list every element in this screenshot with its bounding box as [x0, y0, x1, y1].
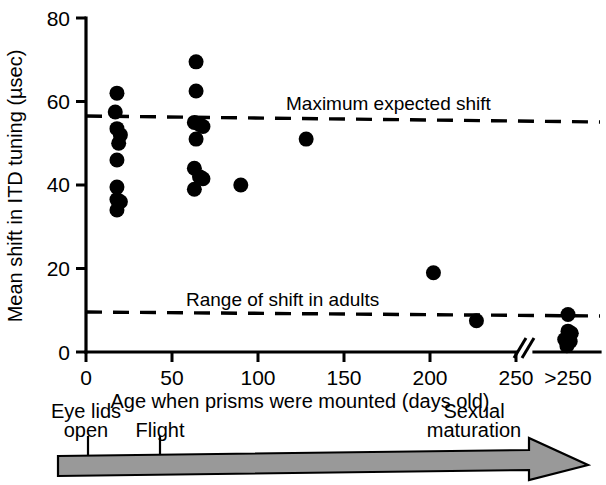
data-point: [233, 178, 248, 193]
data-point: [108, 104, 123, 119]
x-tick-label-50: 50: [160, 366, 183, 389]
data-point: [109, 152, 124, 167]
reference-line-label-adults: Range of shift in adults: [186, 289, 379, 310]
x-tick-label-150: 150: [326, 366, 361, 389]
y-tick-label-60: 60: [47, 90, 70, 113]
scatter-plot-svg: Mean shift in ITD tuning (µsec) 0 20 40 …: [0, 0, 606, 485]
reference-line-range-of-shift-in-adults: [86, 312, 600, 316]
y-tick-label-80: 80: [47, 7, 70, 30]
data-point: [187, 182, 202, 197]
data-point: [564, 326, 579, 341]
y-tick-label-0: 0: [58, 341, 70, 364]
y-tick-label-40: 40: [47, 173, 70, 196]
figure-container: Mean shift in ITD tuning (µsec) 0 20 40 …: [0, 0, 606, 485]
x-axis-title: Age when prisms were mounted (days old): [110, 390, 489, 412]
x-tick-label-over250: >250: [544, 366, 591, 389]
x-tick-label-250: 250: [498, 366, 533, 389]
timeline-arrow-shape: [58, 438, 588, 480]
data-point: [189, 84, 204, 99]
x-tick-label-0: 0: [80, 366, 92, 389]
data-point: [299, 132, 314, 147]
developmental-timeline: Eye lids open Flight Sexual maturation: [51, 400, 588, 480]
x-tick-label-100: 100: [240, 366, 275, 389]
data-point: [111, 136, 126, 151]
x-tick-label-200: 200: [412, 366, 447, 389]
y-tick-label-20: 20: [47, 257, 70, 280]
timeline-label-sexual-line2: maturation: [427, 419, 522, 441]
y-axis-title: Mean shift in ITD tuning (µsec): [4, 50, 26, 323]
timeline-label-flight: Flight: [136, 419, 185, 441]
data-point: [109, 86, 124, 101]
reference-line-maximum-expected-shift: [86, 116, 600, 122]
data-point: [561, 307, 576, 322]
data-point: [189, 54, 204, 69]
data-point: [469, 313, 484, 328]
data-point: [109, 203, 124, 218]
data-point: [189, 132, 204, 147]
reference-line-label-maximum: Maximum expected shift: [286, 93, 492, 114]
data-point: [426, 265, 441, 280]
x-axis-tick-labels: 0 50 100 150 200 250 >250: [80, 366, 592, 389]
timeline-label-eyelids-line2: open: [64, 419, 109, 441]
y-axis-tick-labels: 0 20 40 60 80: [47, 7, 70, 364]
